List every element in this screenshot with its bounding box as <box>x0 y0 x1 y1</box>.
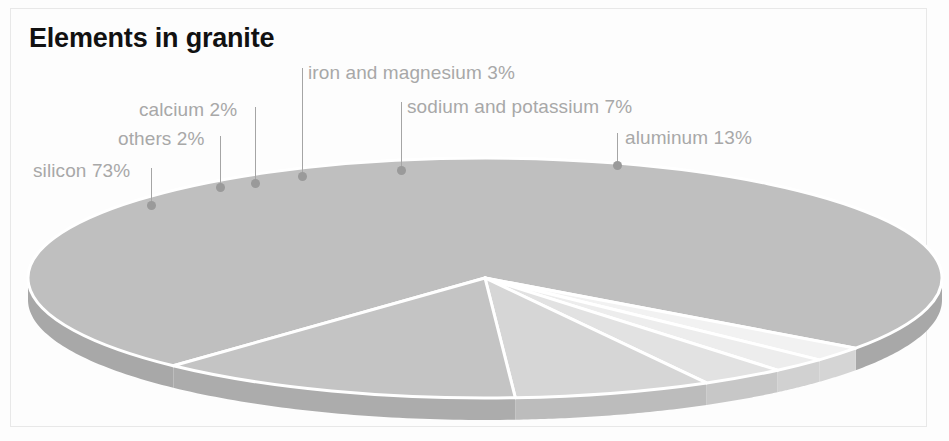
leader-dot-calcium <box>251 179 260 188</box>
leader-line-silicon <box>151 168 152 203</box>
slice-label-others: others 2% <box>118 128 204 150</box>
leader-line-iron-and-magnesium <box>302 68 303 174</box>
leader-line-sodium-and-potassium <box>401 102 402 168</box>
slice-label-sodium-and-potassium: sodium and potassium 7% <box>407 96 632 118</box>
slice-label-silicon: silicon 73% <box>33 160 130 182</box>
leader-dot-aluminum <box>613 161 622 170</box>
leader-line-calcium <box>255 107 256 181</box>
leader-dot-silicon <box>147 201 156 210</box>
leader-dot-iron-and-magnesium <box>298 172 307 181</box>
leader-dot-sodium-and-potassium <box>397 166 406 175</box>
slice-label-aluminum: aluminum 13% <box>625 127 752 149</box>
pie-top-faces: silicon 73%others 2%calcium 2%iron and m… <box>28 158 942 398</box>
leader-line-others <box>220 136 221 185</box>
slice-label-calcium: calcium 2% <box>139 99 237 121</box>
slice-label-iron-and-magnesium: iron and magnesium 3% <box>308 62 515 84</box>
page-title: Elements in granite <box>29 23 274 54</box>
chart-canvas: silicon 73%others 2%calcium 2%iron and m… <box>0 0 949 441</box>
leader-line-aluminum <box>617 133 618 163</box>
leader-dot-others <box>216 183 225 192</box>
